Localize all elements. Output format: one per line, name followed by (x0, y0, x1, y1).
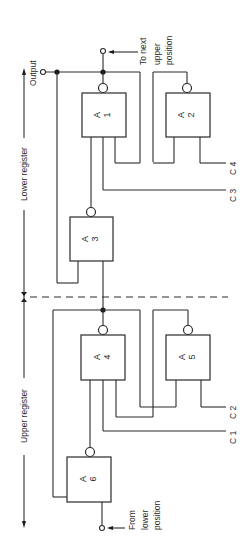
svg-text:3: 3 (90, 236, 100, 241)
inverter-bubble (87, 208, 96, 217)
svg-text:From: From (127, 510, 137, 530)
gate-a1: A 1 (82, 72, 126, 137)
c1-label: C 1 (228, 431, 238, 445)
svg-text:2: 2 (186, 112, 196, 117)
arrow-down-icon (22, 521, 26, 528)
c2-label: C 2 (228, 406, 238, 420)
upper-register-label: Upper register (19, 389, 29, 443)
svg-text:A: A (78, 476, 88, 482)
register-dimension-lines (21, 68, 27, 528)
svg-text:A: A (80, 236, 90, 242)
to-next-upper-terminal (101, 49, 106, 54)
svg-text:A: A (177, 354, 187, 360)
svg-text:position: position (164, 35, 174, 65)
arrow-left-icon (107, 526, 113, 530)
output-terminal (41, 70, 46, 75)
svg-text:position: position (152, 500, 162, 530)
gate-a4: A 4 (81, 310, 125, 380)
gate-a5: A 5 (166, 326, 210, 381)
svg-text:6: 6 (88, 476, 98, 481)
svg-text:lower: lower (140, 510, 150, 530)
lower-register-label: Lower register (19, 147, 29, 201)
from-lower-terminal (100, 526, 105, 531)
output-label: Output (28, 60, 38, 86)
svg-text:To next: To next (138, 37, 148, 65)
arrow-left-icon (108, 50, 114, 54)
to-next-upper-label: To next upper position (138, 35, 174, 65)
inverter-bubble (86, 448, 95, 457)
inverter-bubble (184, 326, 193, 335)
svg-text:5: 5 (187, 354, 197, 359)
arrow-up-icon (22, 68, 26, 75)
c3-label: C 3 (228, 189, 238, 203)
gate-a3: A 3 (70, 208, 113, 262)
from-lower-label: From lower position (127, 500, 162, 530)
svg-text:A: A (92, 112, 102, 118)
inverter-bubble (99, 84, 108, 93)
svg-text:A: A (176, 112, 186, 118)
svg-text:upper: upper (152, 43, 162, 65)
c4-label: C 4 (228, 162, 238, 176)
svg-text:1: 1 (102, 112, 112, 117)
inverter-bubble (183, 84, 192, 93)
register-logic-diagram: Lower register Upper register Output To … (0, 0, 249, 560)
svg-text:4: 4 (102, 354, 112, 359)
gate-a6: A 6 (67, 448, 111, 503)
inverter-bubble (99, 326, 108, 335)
svg-text:A: A (92, 354, 102, 360)
gate-a2: A 2 (153, 72, 210, 162)
